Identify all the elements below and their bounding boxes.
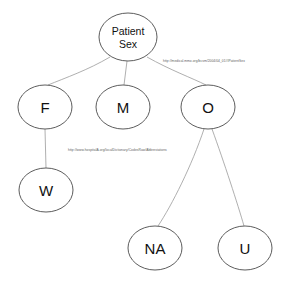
graph-node-f[interactable]: F (18, 85, 72, 129)
edge-label-uri: http://www.hospitalA.org/localDictionary… (68, 148, 167, 152)
graph-edge (158, 129, 204, 226)
node-label: U (240, 240, 251, 257)
graph-edge (45, 129, 46, 168)
graph-node-m[interactable]: M (96, 85, 150, 129)
node-ellipse[interactable] (99, 13, 157, 61)
graph-node-patient-sex[interactable]: PatientSex (99, 13, 157, 61)
graph-node-u[interactable]: U (218, 226, 272, 270)
node-label: F (40, 99, 49, 116)
node-label: M (117, 99, 130, 116)
graph-edge (124, 61, 127, 85)
node-label: Patient (112, 25, 145, 37)
edge-label-uri: http://medical.mmo.org/bcsm/2004/04_01#I… (163, 59, 245, 63)
graph-node-na[interactable]: NA (128, 226, 182, 270)
graph-canvas: http://medical.mmo.org/bcsm/2004/04_01#I… (0, 0, 288, 287)
graph-edge (48, 57, 110, 85)
node-label: O (202, 99, 214, 116)
graph-edge (212, 129, 244, 226)
graph-node-o[interactable]: O (181, 85, 235, 129)
node-label: NA (145, 240, 166, 257)
ontology-diagram: http://medical.mmo.org/bcsm/2004/04_01#I… (0, 0, 288, 287)
nodes-layer: PatientSexFMOWNAU (18, 13, 272, 270)
node-label: W (39, 182, 54, 199)
graph-node-w[interactable]: W (19, 168, 73, 212)
edges-layer (45, 57, 244, 226)
node-label-secondary: Sex (119, 38, 138, 50)
